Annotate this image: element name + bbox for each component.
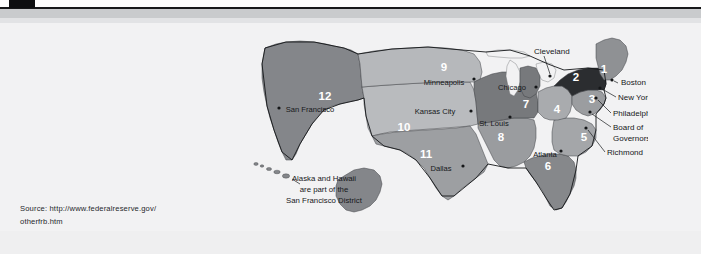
annotation-line-2: are part of the	[300, 185, 349, 194]
header-corner-mark	[9, 0, 35, 8]
header-band	[0, 9, 701, 18]
district-number-10: 10	[398, 121, 411, 133]
map-svg: 1 2 3 4 5 6 7 8 9 10 11 12	[248, 24, 648, 230]
district-number-1: 1	[601, 63, 608, 75]
city-dot-atlanta	[559, 149, 562, 152]
district-region-11[interactable]	[372, 126, 488, 200]
city-dot-board-of-governors	[588, 110, 591, 113]
michigan-lower	[520, 66, 540, 98]
city-label-chicago: Chicago	[498, 83, 526, 92]
federal-reserve-districts-map: 1 2 3 4 5 6 7 8 9 10 11 12	[248, 24, 648, 230]
leader-line-boston	[614, 81, 618, 83]
footer-band	[0, 231, 701, 254]
city-dot-st-louis	[508, 115, 511, 118]
city-label-san-francisco: San Francisco	[286, 105, 335, 114]
district-number-11: 11	[420, 148, 433, 160]
hawaii-region[interactable]	[254, 163, 290, 179]
city-dot-new-york	[598, 86, 601, 89]
header-rule	[0, 7, 701, 9]
annotation-line-3: San Francisco District	[286, 196, 363, 205]
source-note-line2: otherfrb.htm	[20, 216, 195, 229]
callout-label-philadelphia: Philadelphia	[613, 109, 648, 118]
district-number-2: 2	[573, 71, 579, 83]
district-number-8: 8	[498, 131, 505, 143]
city-label-st-louis: St. Louis	[479, 119, 509, 128]
source-note: Source: http://www.federalreserve.gov/ o…	[20, 203, 195, 228]
district-region-5[interactable]	[552, 118, 596, 156]
city-label-dallas: Dallas	[430, 164, 451, 173]
city-dot-san-francisco	[277, 106, 280, 109]
district-number-6: 6	[545, 160, 551, 172]
callout-label-board-of: Board of	[613, 123, 644, 132]
leader-line-board	[592, 114, 611, 127]
city-label-kansas-city: Kansas City	[415, 107, 456, 116]
district-number-12: 12	[319, 90, 332, 102]
city-dot-kansas-city	[469, 109, 472, 112]
district-number-5: 5	[581, 131, 588, 143]
callout-label-governors: Governors	[613, 134, 648, 143]
source-note-line1: Source: http://www.federalreserve.gov/	[20, 203, 195, 216]
city-dot-cleveland	[548, 74, 551, 77]
annotation-line-1: Alaska and Hawaii	[292, 174, 356, 183]
callout-label-richmond: Richmond	[607, 148, 643, 157]
city-dot-chicago	[534, 85, 537, 88]
district-number-9: 9	[441, 61, 447, 73]
page-root: Source: http://www.federalreserve.gov/ o…	[0, 0, 701, 254]
callout-label-new-york: New York	[618, 93, 648, 102]
district-region-12[interactable]	[262, 41, 364, 160]
city-dot-dallas	[461, 164, 464, 167]
city-dot-richmond	[584, 126, 587, 129]
district-number-7: 7	[523, 98, 529, 110]
district-number-3: 3	[589, 93, 595, 105]
city-label-atlanta: Atlanta	[533, 150, 557, 159]
callout-label-boston: Boston	[621, 78, 646, 87]
city-dot-philadelphia	[594, 96, 597, 99]
city-dot-minneapolis	[472, 77, 475, 80]
callout-label-cleveland: Cleveland	[534, 47, 570, 56]
district-number-4: 4	[554, 103, 561, 115]
city-dot-boston	[610, 78, 613, 81]
city-label-minneapolis: Minneapolis	[424, 78, 465, 87]
